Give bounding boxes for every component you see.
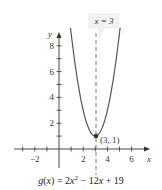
svg-text:2: 2 — [81, 154, 86, 164]
svg-text:6: 6 — [50, 67, 55, 77]
vertex-point — [94, 134, 99, 139]
parabola-chart: −2246 2468 x y x = 3 (3, 1) — [0, 0, 162, 175]
vertex-label: (3, 1) — [100, 135, 120, 145]
x-axis-label: x — [146, 154, 151, 164]
y-axis-arrow-icon — [57, 32, 62, 38]
x-tick-labels: −2246 — [30, 154, 134, 164]
y-axis-label: y — [47, 29, 52, 39]
symmetry-callout: x = 3 — [89, 14, 119, 38]
svg-text:−2: −2 — [30, 154, 40, 164]
function-caption: g(x) = 2x2 − 12x + 19 — [0, 174, 162, 186]
svg-text:8: 8 — [50, 41, 55, 51]
x-axis-arrow-icon — [144, 147, 150, 152]
svg-text:4: 4 — [50, 92, 55, 102]
y-tick-labels: 2468 — [50, 41, 55, 128]
parabola-curve — [71, 28, 121, 136]
svg-text:4: 4 — [105, 154, 110, 164]
svg-text:2: 2 — [50, 118, 55, 128]
symmetry-line-label: x = 3 — [93, 16, 114, 26]
svg-text:6: 6 — [129, 154, 134, 164]
